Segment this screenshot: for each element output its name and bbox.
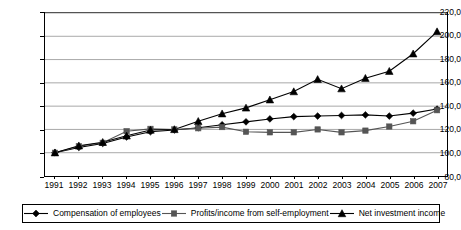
x-axis-tick-mark [102,176,103,179]
data-point-marker [410,119,415,124]
y-axis-tick-label: 160,0 [421,78,461,87]
y-axis-tick-label: 100,0 [421,149,461,158]
x-axis-tick-mark [198,176,199,179]
data-point-marker [363,128,368,133]
y-axis-tick-mark [40,59,44,60]
x-axis-tick-mark [126,176,127,179]
x-axis-tick-label: 2007 [423,181,453,190]
y-axis-tick-label: 120,0 [421,125,461,134]
x-axis-tick-mark [294,176,295,179]
data-point-marker [338,85,346,92]
series-markers [51,28,441,156]
x-axis-tick-mark [390,176,391,179]
legend-item[interactable]: Profits/income from self-employment [161,208,329,219]
data-point-marker [386,113,393,120]
data-point-marker [290,88,298,95]
data-point-marker [196,126,201,131]
y-axis-tick-label: 220,0 [421,8,461,17]
x-axis-tick-mark [174,176,175,179]
x-axis-tick-mark [318,176,319,179]
x-axis-tick-mark [366,176,367,179]
plot-area [44,12,448,177]
y-axis-tick-label: 140,0 [421,102,461,111]
data-point-marker [362,112,369,119]
data-point-marker [266,116,273,123]
series-layer [45,13,447,176]
x-axis-tick-mark [438,176,439,179]
data-point-marker [267,130,272,135]
data-point-marker [314,113,321,120]
y-axis-tick-mark [40,177,44,178]
data-point-marker [290,113,297,120]
triangle-marker-icon [329,208,355,219]
x-axis: 1991199219931994199519961997199819992000… [44,179,448,193]
data-point-marker [243,129,248,134]
x-axis-tick-mark [342,176,343,179]
x-axis-tick-mark [150,176,151,179]
x-axis-tick-mark [54,176,55,179]
x-axis-tick-mark [414,176,415,179]
x-axis-tick-mark [246,176,247,179]
x-axis-tick-mark [222,176,223,179]
y-axis-tick-label: 200,0 [421,31,461,40]
y-axis-tick-mark [40,153,44,154]
chart-legend: Compensation of employeesProfits/income … [22,204,440,223]
data-point-marker [387,124,392,129]
data-point-marker [219,124,224,129]
y-axis-tick-label: 180,0 [421,55,461,64]
data-point-marker [266,96,274,103]
legend-item[interactable]: Compensation of employees [23,208,161,219]
diamond-marker-icon [23,208,49,219]
y-axis-tick-mark [40,83,44,84]
data-point-marker [242,104,250,111]
y-axis-tick-mark [40,36,44,37]
data-point-marker [339,130,344,135]
square-marker-icon [161,208,187,219]
x-axis-tick-mark [270,176,271,179]
y-axis-tick-mark [40,106,44,107]
chart-container: 80,0100,0120,0140,0160,0180,0200,0220,0 … [0,0,461,230]
legend-label: Profits/income from self-employment [191,209,329,218]
data-point-marker [243,119,250,126]
data-point-marker [315,127,320,132]
legend-label: Compensation of employees [53,209,161,218]
legend-item[interactable]: Net investment income [329,208,445,219]
data-point-marker [338,112,345,119]
legend-label: Net investment income [359,209,445,218]
data-point-marker [314,76,322,83]
data-point-marker [291,130,296,135]
y-axis-tick-mark [40,130,44,131]
data-point-marker [410,110,417,117]
y-axis-tick-mark [40,12,44,13]
x-axis-tick-mark [78,176,79,179]
data-point-marker [386,67,394,74]
